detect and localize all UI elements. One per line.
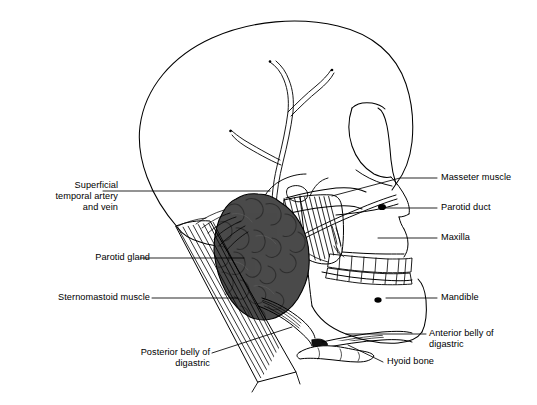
label-posterior-belly-of-digastric: Posterior belly of digastric: [100, 347, 210, 369]
anatomical-figure: Superficial temporal artery and vein Par…: [0, 0, 537, 405]
lower-teeth-row: [326, 268, 412, 285]
label-superficial-temporal-artery-and-vein: Superficial temporal artery and vein: [8, 180, 118, 214]
leader-masseter: [332, 178, 437, 196]
label-mandible: Mandible: [441, 292, 537, 303]
label-masseter-muscle: Masseter muscle: [441, 172, 537, 183]
label-hyoid-bone: Hyoid bone: [387, 356, 477, 367]
parotid-gland: [214, 194, 309, 320]
hyoid-bone: [297, 346, 374, 362]
label-anterior-belly-of-digastric: Anterior belly of digastric: [429, 328, 534, 350]
label-parotid-duct: Parotid duct: [441, 202, 537, 213]
label-parotid-gland: Parotid gland: [20, 252, 150, 263]
label-sternomastoid-muscle: Sternomastoid muscle: [10, 292, 150, 303]
leader-posterior-digastric: [212, 327, 292, 353]
superficial-temporal-vessels: [229, 60, 334, 212]
label-maxilla: Maxilla: [441, 232, 537, 243]
parotid-duct: [300, 195, 397, 257]
